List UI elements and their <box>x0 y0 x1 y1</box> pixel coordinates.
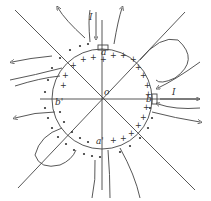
field-line <box>120 148 140 198</box>
svg-text:+: + <box>128 129 135 138</box>
svg-text:+: + <box>143 103 150 112</box>
svg-text:+: + <box>110 136 117 145</box>
label-current-right: I <box>171 87 176 97</box>
field-line <box>158 104 200 109</box>
svg-text:+: + <box>120 51 127 60</box>
svg-text:+: + <box>70 61 77 70</box>
svg-text:+: + <box>120 134 127 143</box>
field-line <box>10 68 62 80</box>
svg-text:+: + <box>60 81 67 90</box>
svg-text:+: + <box>80 55 87 64</box>
field-line <box>92 160 95 198</box>
label-a: a <box>101 47 106 57</box>
field-line <box>15 112 55 118</box>
svg-text:+: + <box>144 81 151 90</box>
field-line <box>152 112 200 122</box>
svg-text:+: + <box>110 51 117 60</box>
label-b: b <box>146 94 152 104</box>
field-line <box>140 39 188 82</box>
field-line <box>108 150 110 198</box>
field-diagram: + + + + + + + + + + + + + + + + + + + o … <box>0 0 211 201</box>
field-line <box>12 56 52 62</box>
svg-text:+: + <box>140 71 147 80</box>
field-line <box>58 8 85 38</box>
label-a-prime: a' <box>96 136 104 146</box>
svg-text:+: + <box>90 53 97 62</box>
svg-text:+: + <box>135 121 142 130</box>
label-center: o <box>104 87 110 97</box>
label-b-prime: b' <box>55 97 63 107</box>
svg-text:+: + <box>62 71 69 80</box>
positive-charges: + + + + + + + + + + + + + + + + + + + <box>60 51 152 145</box>
label-current-top: I <box>88 12 93 22</box>
field-line <box>114 8 122 44</box>
